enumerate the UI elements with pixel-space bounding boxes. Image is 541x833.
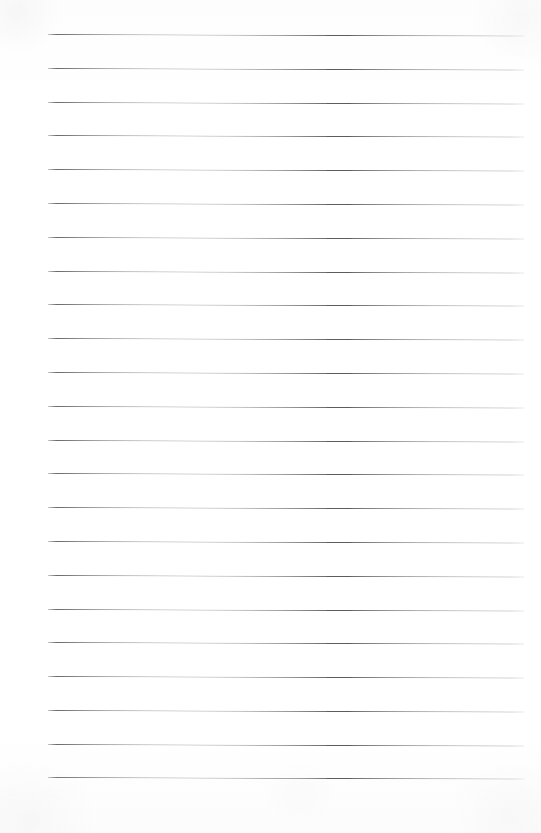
ruled-line [48,575,524,577]
ruled-line [48,169,524,171]
ruled-line [48,102,524,104]
ruled-line [48,541,524,543]
ruled-line [48,203,524,205]
ruled-line [48,135,524,137]
ruled-line [48,440,524,442]
scanned-page [0,0,541,833]
ruled-line [48,473,524,475]
ruled-line [48,271,524,273]
ruled-line [48,406,524,408]
ruled-line [48,642,524,644]
ruled-line [48,338,524,340]
ruled-line [48,609,524,611]
ruled-line [48,304,524,306]
ruled-line [48,34,524,36]
ruled-line [48,68,524,70]
ruled-line [48,507,524,509]
ruled-lines-layer [0,0,541,833]
ruled-line [48,372,524,374]
ruled-line [48,777,524,779]
ruled-line [48,710,524,712]
ruled-line [48,744,524,746]
ruled-line [48,676,524,678]
ruled-line [48,237,524,239]
